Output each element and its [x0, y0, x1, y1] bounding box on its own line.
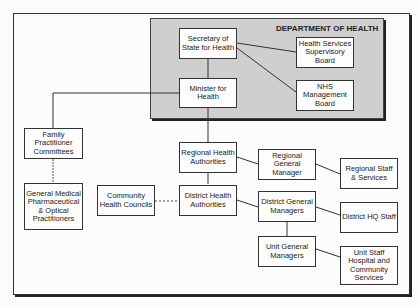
node-unit-general-managers: Unit General Managers	[258, 236, 316, 267]
node-secretary-of-state: Secretary of State for Health	[179, 28, 237, 59]
node-district-health-authorities: District Health Authorities	[179, 185, 237, 216]
node-family-practitioner-committees: Family Practitioner Committees	[24, 128, 83, 159]
node-unit-staff-services: Unit Staff Hospital and Community Servic…	[340, 246, 398, 285]
node-nhs-management-board: NHS Management Board	[296, 80, 354, 111]
node-regional-staff-services: Regional Staff & Services	[340, 158, 398, 189]
node-regional-health-authorities: Regional Health Authorities	[179, 142, 237, 173]
node-district-hq-staff: District HQ Staff	[340, 202, 398, 233]
node-community-health-councils: Community Health Councils	[97, 185, 155, 216]
node-regional-general-manager: Regional General Manager	[258, 149, 316, 180]
node-minister-for-health: Minister for Health	[179, 78, 237, 108]
node-health-services-supervisory-board: Health Services Supervisory Board	[296, 37, 354, 68]
node-general-medical-practitioners: General Medical Pharmaceutical & Optical…	[24, 183, 83, 230]
node-district-general-managers: District General Managers	[258, 191, 316, 222]
